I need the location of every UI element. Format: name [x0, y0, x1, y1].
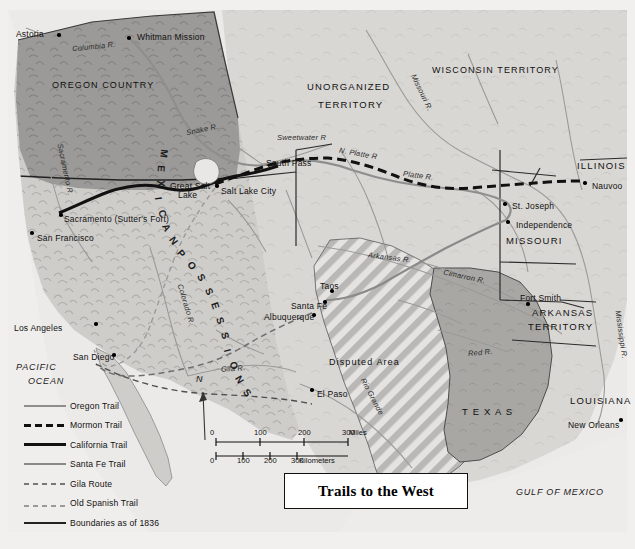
city-marker-independence — [506, 220, 510, 224]
legend-item-boundaries-as-of-1836[interactable]: Boundaries as of 1836 — [24, 513, 214, 533]
legend-item-california-trail[interactable]: California Trail — [24, 435, 214, 455]
city-marker-fort-smith — [526, 302, 530, 306]
map-page: OREGON COUNTRYUNORGANIZEDTERRITORYWISCON… — [0, 0, 635, 549]
legend-item-oregon-trail[interactable]: Oregon Trail — [24, 396, 214, 416]
north-arrow: N — [196, 368, 203, 386]
city-marker-taos — [330, 289, 334, 293]
scale-km-tick-0: 0 — [210, 456, 214, 465]
legend-label-old-spanish-trail: Old Spanish Trail — [70, 498, 138, 508]
city-marker-albuquerque — [312, 313, 316, 317]
map-legend: Oregon TrailMormon TrailCalifornia Trail… — [24, 396, 214, 533]
north-arrow-label: N — [196, 374, 203, 384]
city-marker-whitman-mission — [127, 36, 131, 40]
legend-label-gila-route: Gila Route — [70, 479, 112, 489]
city-marker-san-diego — [112, 353, 116, 357]
legend-item-santa-fe-trail[interactable]: Santa Fe Trail — [24, 455, 214, 475]
scale-miles-tick-0: 0 — [210, 428, 214, 437]
city-marker-el-paso — [310, 388, 314, 392]
scale-miles-tick-100: 100 — [254, 428, 267, 437]
legend-swatch-oregon-trail — [24, 405, 70, 407]
legend-label-santa-fe-trail: Santa Fe Trail — [70, 459, 126, 469]
map-title: Trails to the West — [318, 483, 434, 500]
legend-label-boundaries-as-of-1836: Boundaries as of 1836 — [70, 518, 159, 528]
city-marker-nauvoo — [583, 181, 587, 185]
city-marker-sacramento-sutter-s-fort — [59, 213, 63, 217]
legend-swatch-gila-route — [24, 483, 70, 485]
city-marker-los-angeles — [94, 322, 98, 326]
scale-miles-unit: Miles — [349, 428, 367, 437]
legend-item-old-spanish-trail[interactable]: Old Spanish Trail — [24, 494, 214, 514]
legend-swatch-mormon-trail — [24, 424, 70, 427]
legend-item-mormon-trail[interactable]: Mormon Trail — [24, 416, 214, 436]
legend-swatch-old-spanish-trail — [24, 500, 70, 507]
city-marker-new-orleans — [619, 418, 623, 422]
legend-swatch-california-trail — [24, 443, 70, 446]
legend-item-gila-route[interactable]: Gila Route — [24, 474, 214, 494]
legend-swatch-boundaries-as-of-1836 — [24, 522, 70, 524]
scale-miles-tick-200: 200 — [298, 428, 311, 437]
city-marker-astoria — [57, 33, 61, 37]
scale-km-tick-200: 200 — [264, 456, 277, 465]
city-marker-santa-fe — [323, 300, 327, 304]
city-marker-salt-lake-city — [215, 184, 219, 188]
legend-swatch-santa-fe-trail — [24, 463, 70, 465]
city-marker-san-francisco — [30, 231, 34, 235]
map-title-box: Trails to the West — [284, 473, 468, 509]
legend-label-california-trail: California Trail — [70, 440, 127, 450]
scale-bar: 0100200300Miles0100200300Kilometers — [213, 428, 358, 464]
legend-label-oregon-trail: Oregon Trail — [70, 401, 119, 411]
scale-km-tick-100: 100 — [237, 456, 250, 465]
great-salt-lake — [194, 159, 220, 184]
legend-label-mormon-trail: Mormon Trail — [70, 420, 122, 430]
city-marker-st-joseph — [503, 202, 507, 206]
scale-km-unit: Kilometers — [299, 456, 335, 465]
